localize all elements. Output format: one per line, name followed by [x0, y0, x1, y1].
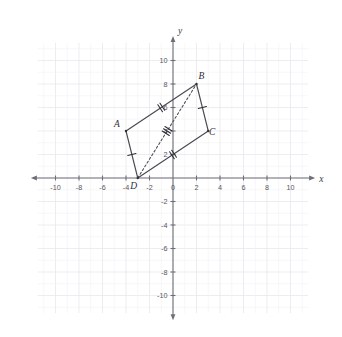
- y-tick-label: 8: [164, 80, 168, 89]
- vertex-dot-A: [125, 130, 127, 132]
- x-tick-label: -4: [123, 183, 129, 192]
- x-tick-label: 6: [242, 183, 246, 192]
- vertex-dot-D: [137, 177, 139, 179]
- x-tick-label: 8: [265, 183, 269, 192]
- x-tick-label: -8: [76, 183, 82, 192]
- y-tick-label: -6: [161, 244, 167, 253]
- vertex-label-A: A: [113, 119, 120, 129]
- x-tick-label: -2: [146, 183, 152, 192]
- x-axis-name: x: [318, 174, 324, 184]
- x-tick-label: 4: [218, 183, 222, 192]
- coordinate-geometry-figure: -10-8-6-4-20246810108642-2-4-6-8-10 ABCD…: [0, 0, 342, 337]
- y-tick-label: -4: [161, 221, 167, 230]
- vertex-label-D: D: [129, 181, 137, 191]
- vertex-dot-B: [195, 83, 197, 85]
- y-axis-name: y: [177, 26, 183, 36]
- y-tick-label: -8: [161, 268, 167, 277]
- y-tick-label: 10: [160, 56, 168, 65]
- x-tick-label: -10: [50, 183, 60, 192]
- x-tick-label: -6: [99, 183, 105, 192]
- x-tick-label: 10: [287, 183, 295, 192]
- y-tick-label: 2: [164, 150, 168, 159]
- vertex-label-B: B: [199, 71, 205, 81]
- x-tick-label: 2: [195, 183, 199, 192]
- axes-layer: [31, 36, 315, 320]
- vertex-label-C: C: [209, 127, 216, 137]
- coordinate-plane: -10-8-6-4-20246810108642-2-4-6-8-10 ABCD…: [0, 0, 342, 337]
- x-tick-label: 0: [171, 183, 175, 192]
- y-tick-label: -10: [157, 291, 167, 300]
- y-tick-label: -2: [161, 197, 167, 206]
